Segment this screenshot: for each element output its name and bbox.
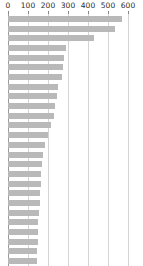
bar xyxy=(8,200,40,206)
bar-row xyxy=(0,237,143,247)
bar-row xyxy=(0,14,143,24)
bar xyxy=(8,258,37,264)
bar-row xyxy=(0,256,143,266)
x-axis-tick-labels: 0100200300400500600 xyxy=(0,0,143,13)
bar-row xyxy=(0,111,143,121)
bar xyxy=(8,210,39,216)
bar xyxy=(8,190,40,196)
bar xyxy=(8,229,38,235)
bar xyxy=(8,132,48,138)
bar-row xyxy=(0,130,143,140)
bar-row xyxy=(0,140,143,150)
bar-row xyxy=(0,179,143,189)
bar xyxy=(8,219,38,225)
x-tick-label: 200 xyxy=(41,1,55,10)
x-tick-mark xyxy=(8,11,9,14)
bar xyxy=(8,239,38,245)
bar xyxy=(8,74,62,80)
bar-row xyxy=(0,198,143,208)
bar-row xyxy=(0,150,143,160)
bar xyxy=(8,16,122,22)
bar xyxy=(8,103,55,109)
bar-row xyxy=(0,188,143,198)
bar xyxy=(8,171,41,177)
bar-row xyxy=(0,101,143,111)
bar-row xyxy=(0,53,143,63)
x-tick-mark xyxy=(68,11,69,14)
bar xyxy=(8,142,45,148)
bar-row xyxy=(0,208,143,218)
bar-row xyxy=(0,247,143,257)
bar-chart: 0100200300400500600 xyxy=(0,0,143,266)
x-tick-mark xyxy=(88,11,89,14)
bar xyxy=(8,181,41,187)
bar xyxy=(8,122,51,128)
bar-row xyxy=(0,33,143,43)
bar-row xyxy=(0,169,143,179)
x-tick-mark xyxy=(28,11,29,14)
bar xyxy=(8,35,94,41)
bar xyxy=(8,161,42,167)
x-tick-mark xyxy=(128,11,129,14)
x-tick-mark xyxy=(108,11,109,14)
x-tick-label: 600 xyxy=(121,1,135,10)
bar-row xyxy=(0,92,143,102)
bar-row xyxy=(0,218,143,228)
x-tick-label: 300 xyxy=(61,1,75,10)
x-tick-label: 400 xyxy=(81,1,95,10)
bar-row xyxy=(0,24,143,34)
bar-series xyxy=(0,14,143,266)
bar-row xyxy=(0,227,143,237)
bar-row xyxy=(0,82,143,92)
x-tick-label: 500 xyxy=(101,1,115,10)
bar-row xyxy=(0,62,143,72)
bar xyxy=(8,45,66,51)
bar xyxy=(8,152,43,158)
bar xyxy=(8,113,54,119)
bar xyxy=(8,26,115,32)
x-tick-mark xyxy=(48,11,49,14)
bar-row xyxy=(0,159,143,169)
bar xyxy=(8,55,64,61)
plot-area xyxy=(0,14,143,266)
bar xyxy=(8,64,63,70)
x-tick-label: 0 xyxy=(6,1,11,10)
bar xyxy=(8,84,58,90)
bar-row xyxy=(0,121,143,131)
x-tick-label: 100 xyxy=(21,1,35,10)
bar xyxy=(8,93,57,99)
bar xyxy=(8,248,37,254)
bar-row xyxy=(0,43,143,53)
bar-row xyxy=(0,72,143,82)
